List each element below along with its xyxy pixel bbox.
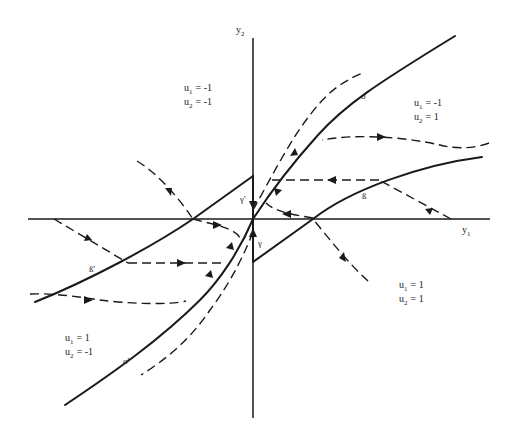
- arrow-icon: [377, 133, 386, 141]
- trajectory-lower-right: [313, 219, 368, 281]
- trajectory-upper-far: [322, 137, 489, 148]
- arrow-icon: [339, 252, 346, 262]
- arrow-icon: [84, 296, 93, 304]
- svg-text:u2= -1: u2= -1: [65, 346, 93, 360]
- region-label-lower-left: u1= 1 u2= -1: [65, 332, 93, 360]
- region-label-upper-right: u1= -1 u2= 1: [414, 97, 442, 125]
- svg-text:u2= 1: u2= 1: [399, 293, 424, 307]
- trajectory-upper-left: [137, 161, 193, 219]
- sigma-curve: [253, 36, 455, 219]
- arrow-icon: [274, 188, 282, 196]
- beta-prime-curve: [35, 176, 253, 302]
- arrow-icon: [327, 176, 336, 184]
- y1-axis-label: y1: [462, 224, 471, 238]
- arrow-icon: [282, 210, 291, 218]
- beta-label: ß: [362, 191, 367, 201]
- sigma-label: σ: [361, 91, 366, 101]
- gamma-label: γ: [257, 238, 262, 248]
- trajectory-to-gamma: [193, 219, 240, 238]
- region-label-upper-left: u1= -1 u2= -1: [184, 82, 212, 110]
- svg-text:u1= -1: u1= -1: [414, 97, 442, 111]
- trajectory-sigma-parallel: [253, 73, 363, 210]
- svg-text:u2= 1: u2= 1: [414, 111, 439, 125]
- arrow-icon: [165, 188, 172, 196]
- svg-text:u1= 1: u1= 1: [399, 279, 424, 293]
- beta-prime-label: ß': [89, 264, 96, 274]
- arrow-icon: [205, 270, 213, 278]
- arrow-icon: [177, 259, 186, 267]
- region-label-lower-right: u1= 1 u2= 1: [399, 279, 424, 307]
- gamma-prime-label: γ': [239, 194, 246, 204]
- sigma-prime-label: σ': [123, 356, 130, 366]
- arrow-icon: [425, 208, 433, 215]
- phase-plane-diagram: y2 y1: [0, 0, 517, 438]
- sigma-prime-curve: [65, 219, 253, 405]
- arrow-icon: [226, 242, 234, 250]
- arrow-icon: [213, 221, 222, 229]
- svg-text:u1= -1: u1= -1: [184, 82, 212, 96]
- svg-text:u1= 1: u1= 1: [65, 332, 90, 346]
- svg-text:u2= -1: u2= -1: [184, 96, 212, 110]
- trajectory-right-diagonal: [379, 180, 451, 219]
- y2-axis-label: y2: [236, 24, 245, 38]
- arrow-icon: [249, 228, 257, 237]
- arrow-icon: [290, 148, 298, 156]
- trajectory-left-diagonal: [54, 219, 128, 263]
